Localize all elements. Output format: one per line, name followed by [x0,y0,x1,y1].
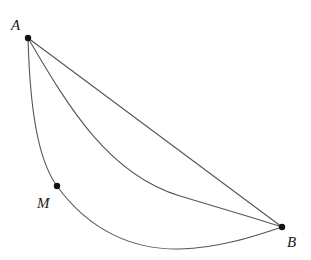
point-m [54,183,60,189]
point-a [25,35,31,41]
lower-curve-amb [28,38,282,249]
label-a: A [10,17,21,33]
label-m: M [36,195,51,211]
straight-segment-ab [28,38,282,227]
point-b [279,224,285,230]
brachistochrone-diagram: A B M [0,0,311,260]
label-b: B [287,234,296,250]
